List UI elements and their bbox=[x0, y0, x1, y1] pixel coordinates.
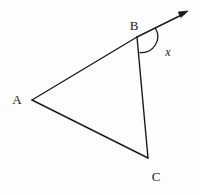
segment-ab bbox=[32, 37, 137, 100]
vertex-label-c: C bbox=[152, 170, 161, 183]
vertex-label-a: A bbox=[12, 93, 21, 106]
ray-b-extension bbox=[137, 14, 185, 38]
angle-arc-x bbox=[140, 29, 158, 53]
figure-canvas bbox=[0, 0, 200, 195]
segment-ac bbox=[32, 100, 148, 158]
angle-label-x: x bbox=[165, 46, 170, 58]
vertex-label-b: B bbox=[130, 19, 139, 32]
geometry-figure: A B C x bbox=[0, 0, 200, 195]
segment-bc bbox=[137, 37, 148, 158]
